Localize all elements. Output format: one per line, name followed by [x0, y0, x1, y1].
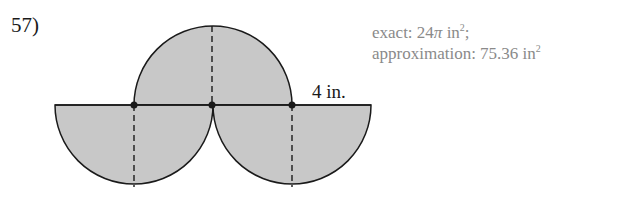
dimension-label: 4 in. [312, 81, 346, 103]
approximate-answer: approximation: 75.36 in2 [372, 43, 541, 64]
top-semicircle [134, 26, 292, 105]
exact-answer: exact: 24π in2; [372, 22, 541, 43]
center-point-right [289, 102, 296, 109]
center-point-left [131, 102, 138, 109]
center-point-middle [209, 102, 216, 109]
answer-block: exact: 24π in2; approximation: 75.36 in2 [372, 22, 541, 64]
